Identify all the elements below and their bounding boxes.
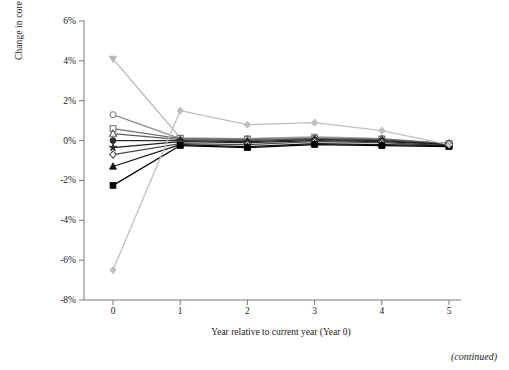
x-tick-label: 0 — [101, 306, 125, 316]
y-tick-label: -8% — [36, 295, 76, 305]
series-markers — [110, 142, 452, 189]
y-tick-label: -4% — [36, 215, 76, 225]
x-axis-title: Year relative to current year (Year 0) — [113, 327, 449, 337]
y-tick-label: -6% — [36, 255, 76, 265]
x-tick-label: 2 — [235, 306, 259, 316]
figure-caption: (continued) — [451, 351, 497, 362]
x-tick-label: 3 — [303, 306, 327, 316]
x-axis-tick-labels: 0 1 2 3 4 5 — [0, 306, 509, 322]
chart-series-markers — [109, 56, 453, 274]
series-line — [113, 111, 449, 270]
y-tick-label: 6% — [36, 16, 76, 26]
series-line — [113, 59, 449, 145]
y-tick-label: 4% — [36, 56, 76, 66]
y-axis-title: Change in core sales profit margin — [14, 0, 24, 60]
chart-axes — [79, 21, 461, 306]
chart-figure: 6% 4% 2% 0% -2% -4% -6% -8% 0 1 2 3 4 5 … — [0, 0, 509, 370]
x-tick-label: 5 — [437, 306, 461, 316]
y-tick-label: 0% — [36, 136, 76, 146]
y-tick-label: -2% — [36, 175, 76, 185]
x-tick-label: 1 — [168, 306, 192, 316]
chart-series-lines — [113, 59, 449, 270]
y-tick-label: 2% — [36, 96, 76, 106]
x-tick-label: 4 — [370, 306, 394, 316]
